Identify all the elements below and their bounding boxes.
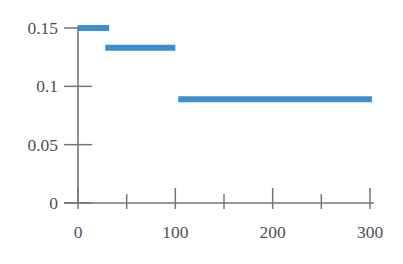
x-tick-label-4: 200 [260,222,287,242]
chart-plot-area: 00.050.10.150100200300 [0,0,403,264]
y-tick-label-3: 0.15 [27,18,58,38]
x-tick-label-0: 0 [74,222,83,242]
y-tick-label-2: 0.1 [36,76,58,96]
y-tick-label-1: 0.05 [27,135,58,155]
x-tick-label-2: 100 [162,222,189,242]
x-tick-label-6: 300 [357,222,384,242]
y-tick-label-0: 0 [49,193,58,213]
chart-figure: 00.050.10.150100200300 [0,0,403,264]
